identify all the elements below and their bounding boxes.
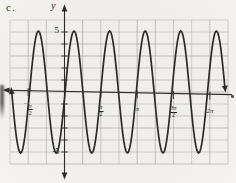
scan-dot xyxy=(231,95,234,98)
curve-right-arrow xyxy=(222,85,228,92)
y-tick-label-max: 5 xyxy=(44,25,59,35)
y-axis-bottom-arrow xyxy=(62,173,68,180)
x-tick-label: −π2 xyxy=(24,94,33,116)
y-axis-title: y xyxy=(51,0,56,11)
x-tick-label: π xyxy=(135,97,139,115)
scan-smudge xyxy=(0,85,4,119)
scanned-graph-page: c. y 5 -5 −π2π2π3π22π xyxy=(0,0,236,183)
y-axis-top-arrow xyxy=(62,5,68,12)
y-tick-label-min: -5 xyxy=(41,146,59,156)
x-tick-label: 2π xyxy=(206,99,213,117)
x-tick-label: 3π2 xyxy=(170,96,178,118)
x-tick-label: π2 xyxy=(98,95,103,117)
problem-label: c. xyxy=(6,1,16,13)
sine-wave-plot xyxy=(0,0,236,183)
